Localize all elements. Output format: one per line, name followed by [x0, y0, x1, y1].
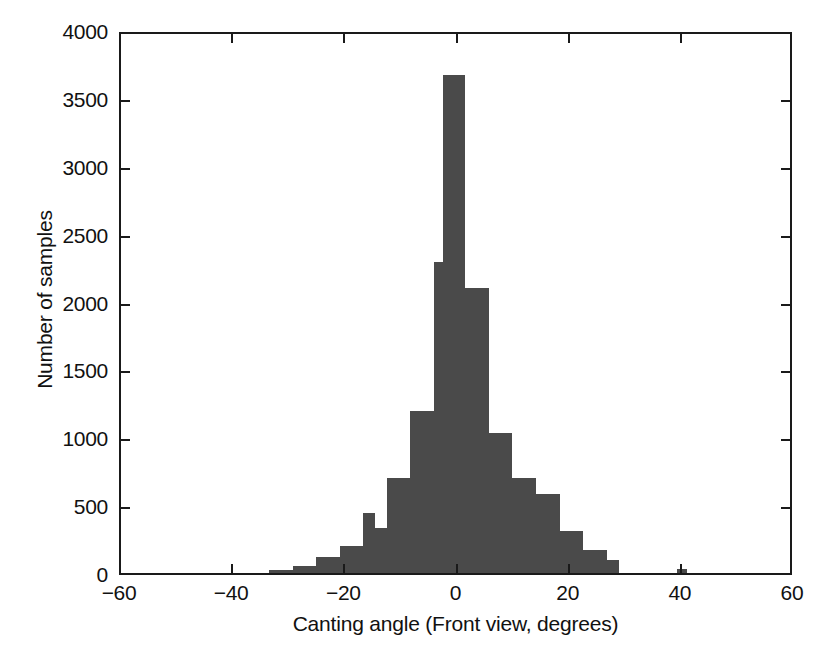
y-axis-title: Number of samples	[33, 150, 56, 450]
x-axis-tick	[680, 564, 682, 575]
y-axis-tick-label: 4000	[0, 21, 108, 42]
histogram-bar	[410, 411, 434, 573]
x-axis-tick-top	[343, 32, 345, 43]
x-axis-tick-top	[680, 32, 682, 43]
histogram-bar	[489, 433, 513, 573]
x-axis-tick-label: −60	[74, 581, 164, 604]
y-axis-tick	[119, 371, 130, 373]
y-axis-tick	[119, 100, 130, 102]
x-axis-tick	[568, 564, 570, 575]
histogram-figure: 05001000150020002500300035004000 −60−40−…	[0, 0, 833, 659]
histogram-bar	[607, 560, 619, 573]
x-axis-tick-top	[231, 32, 233, 43]
plot-area	[119, 32, 792, 575]
y-axis-tick-right	[781, 236, 792, 238]
histogram-bars	[121, 34, 790, 573]
x-axis-tick-top	[456, 32, 458, 43]
histogram-bar	[316, 557, 340, 573]
histogram-bar	[269, 570, 293, 573]
y-axis-tick-right	[781, 304, 792, 306]
histogram-bar	[293, 566, 317, 573]
y-axis-tick-label: 3500	[0, 89, 108, 110]
y-axis-tick-right	[781, 168, 792, 170]
histogram-bar	[434, 262, 443, 573]
x-axis-tick	[231, 564, 233, 575]
y-axis-tick	[119, 507, 130, 509]
histogram-bar	[512, 478, 536, 573]
y-axis-tick	[119, 439, 130, 441]
x-axis-tick-label: 0	[411, 581, 501, 604]
histogram-bar	[465, 288, 489, 573]
x-axis-tick-top	[568, 32, 570, 43]
x-axis-tick	[343, 564, 345, 575]
x-axis-tick-label: −40	[186, 581, 276, 604]
y-axis-tick-right	[781, 507, 792, 509]
x-axis-tick-label: −20	[298, 581, 388, 604]
histogram-bar	[560, 531, 584, 573]
histogram-bar	[583, 550, 607, 573]
y-axis-tick-right	[781, 100, 792, 102]
histogram-bar	[387, 478, 411, 573]
x-axis-title: Canting angle (Front view, degrees)	[119, 612, 792, 635]
y-axis-tick	[119, 304, 130, 306]
y-axis-tick-right	[781, 371, 792, 373]
histogram-bar	[375, 528, 387, 573]
x-axis-tick	[456, 564, 458, 575]
x-axis-tick-label: 60	[747, 581, 833, 604]
y-axis-tick	[119, 236, 130, 238]
y-axis-tick-right	[781, 439, 792, 441]
histogram-bar	[363, 513, 375, 573]
histogram-bar	[536, 494, 560, 573]
y-axis-tick	[119, 168, 130, 170]
x-axis-tick-label: 20	[523, 581, 613, 604]
x-axis-tick-label: 40	[635, 581, 725, 604]
y-axis-tick-label: 500	[0, 496, 108, 517]
histogram-bar	[443, 75, 465, 573]
